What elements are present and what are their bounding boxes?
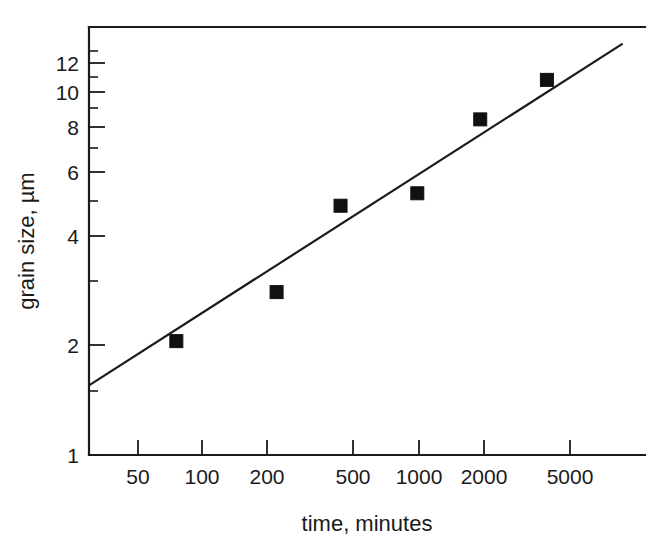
data-point-marker	[411, 187, 424, 200]
chart-svg: 12 10 8 6 4 2 1 50 100 200 500 1000 2000…	[0, 0, 660, 548]
data-point-marker	[474, 113, 487, 126]
y-tick-label-10: 10	[56, 81, 79, 104]
axes-frame	[89, 27, 645, 455]
y-axis-title: grain size, µm	[14, 172, 39, 309]
y-tick-label-4: 4	[67, 225, 79, 248]
x-axis-title: time, minutes	[302, 511, 433, 536]
y-axis-minor-ticks	[89, 51, 98, 391]
x-tick-label-500: 500	[335, 465, 370, 488]
data-point-marker	[334, 199, 347, 212]
y-axis-ticks	[89, 63, 105, 455]
y-tick-label-6: 6	[67, 161, 79, 184]
x-axis-ticks	[138, 440, 570, 455]
x-tick-label-100: 100	[184, 465, 219, 488]
y-tick-labels: 12 10 8 6 4 2 1	[56, 52, 80, 467]
x-tick-label-50: 50	[126, 465, 149, 488]
y-tick-label-2: 2	[67, 334, 79, 357]
y-tick-label-8: 8	[67, 116, 79, 139]
data-point-marker	[170, 335, 183, 348]
x-tick-label-1000: 1000	[396, 465, 443, 488]
data-point-marker	[270, 286, 283, 299]
grain-size-vs-time-chart: 12 10 8 6 4 2 1 50 100 200 500 1000 2000…	[0, 0, 660, 548]
x-tick-label-2000: 2000	[461, 465, 508, 488]
x-tick-label-200: 200	[249, 465, 284, 488]
data-point-marker	[540, 73, 553, 86]
x-tick-label-5000: 5000	[547, 465, 594, 488]
y-tick-label-12: 12	[56, 52, 79, 75]
x-tick-labels: 50 100 200 500 1000 2000 5000	[126, 465, 593, 488]
y-tick-label-1: 1	[67, 444, 79, 467]
trend-line	[89, 44, 622, 385]
